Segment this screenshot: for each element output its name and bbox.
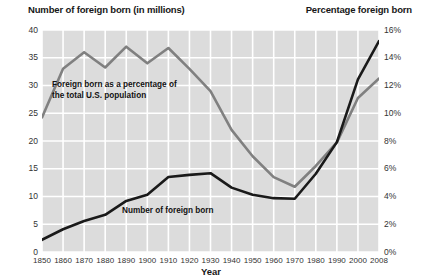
percentage-series-annotation-line1: Foreign born as a percentage of bbox=[52, 79, 177, 90]
percentage-series-annotation-line2: the total U.S. population bbox=[52, 90, 177, 101]
right-axis-tick-10%: 10% bbox=[384, 108, 418, 118]
right-axis-tick-2%: 2% bbox=[384, 219, 418, 229]
right-axis-tick-0%: 0% bbox=[384, 247, 418, 257]
right-axis-tick-16%: 16% bbox=[384, 25, 418, 35]
x-axis-tick-1910: 1910 bbox=[159, 256, 177, 265]
x-axis-tick-1890: 1890 bbox=[117, 256, 135, 265]
right-axis-title: Percentage foreign born bbox=[306, 4, 412, 15]
number-series-annotation: Number of foreign born bbox=[122, 205, 213, 216]
right-axis-tick-12%: 12% bbox=[384, 80, 418, 90]
x-axis-tick-1920: 1920 bbox=[181, 256, 199, 265]
x-axis-tick-1990: 1990 bbox=[328, 256, 346, 265]
x-axis-tick-1980: 1980 bbox=[307, 256, 325, 265]
plot-area bbox=[42, 30, 379, 252]
x-axis-tick-1880: 1880 bbox=[96, 256, 114, 265]
left-axis-tick-0: 0 bbox=[4, 247, 38, 257]
x-axis-tick-1900: 1900 bbox=[138, 256, 156, 265]
x-axis-tick-1940: 1940 bbox=[223, 256, 241, 265]
chart-canvas bbox=[42, 30, 379, 252]
right-axis-tick-14%: 14% bbox=[384, 52, 418, 62]
left-axis-tick-30: 30 bbox=[4, 80, 38, 90]
right-axis-tick-6%: 6% bbox=[384, 163, 418, 173]
x-axis-tick-1860: 1860 bbox=[54, 256, 72, 265]
left-axis-tick-10: 10 bbox=[4, 191, 38, 201]
left-axis-title: Number of foreign born (in millions) bbox=[28, 4, 185, 15]
x-axis-tick-1950: 1950 bbox=[244, 256, 262, 265]
x-axis-tick-1850: 1850 bbox=[33, 256, 51, 265]
x-axis-tick-1960: 1960 bbox=[265, 256, 283, 265]
left-axis-tick-5: 5 bbox=[4, 219, 38, 229]
right-axis-tick-8%: 8% bbox=[384, 136, 418, 146]
left-axis-tick-20: 20 bbox=[4, 136, 38, 146]
right-axis-tick-4%: 4% bbox=[384, 191, 418, 201]
chart-figure: Number of foreign born (in millions) Per… bbox=[0, 0, 422, 280]
x-axis-tick-1970: 1970 bbox=[286, 256, 304, 265]
x-axis-title: Year bbox=[0, 266, 422, 277]
x-axis-tick-1870: 1870 bbox=[75, 256, 93, 265]
left-axis-tick-40: 40 bbox=[4, 25, 38, 35]
x-axis-tick-2008: 2008 bbox=[370, 256, 388, 265]
left-axis-tick-35: 35 bbox=[4, 52, 38, 62]
x-axis-tick-2000: 2000 bbox=[349, 256, 367, 265]
left-axis-tick-15: 15 bbox=[4, 163, 38, 173]
x-axis-tick-1930: 1930 bbox=[202, 256, 220, 265]
left-axis-tick-25: 25 bbox=[4, 108, 38, 118]
percentage-series-annotation: Foreign born as a percentage of the tota… bbox=[52, 79, 177, 101]
